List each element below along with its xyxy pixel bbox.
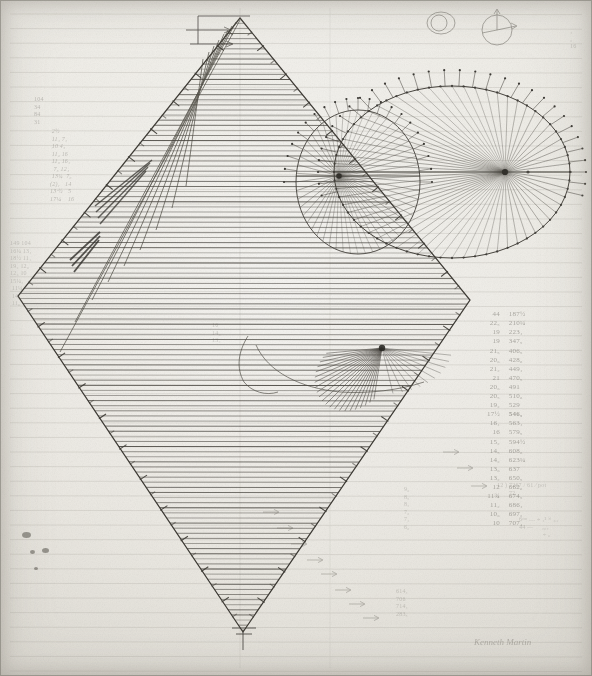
inner-fan-apex [379,345,385,351]
ink-blot [22,532,31,538]
rhombus-hatching [8,18,486,631]
ink-blot [30,550,35,554]
left-convergence-node [70,232,100,272]
artist-signature: Kenneth Martin [474,637,531,647]
side-arrow-marks [263,449,487,620]
ink-blot [42,548,49,553]
manuscript-sheet: 104 34 84 31 2½ 11₄ 7₄ 10 4₅ 11₂ 16 11₆ … [0,0,592,676]
circle-sketch-a [427,12,455,34]
inner-fan-rays [315,348,451,411]
ink-blot [34,567,38,570]
circle-sketch-b [482,9,517,45]
rhombus-diagonal-construction [60,20,240,352]
drawing-artwork [0,0,592,676]
upper-left-convergence [95,160,152,224]
